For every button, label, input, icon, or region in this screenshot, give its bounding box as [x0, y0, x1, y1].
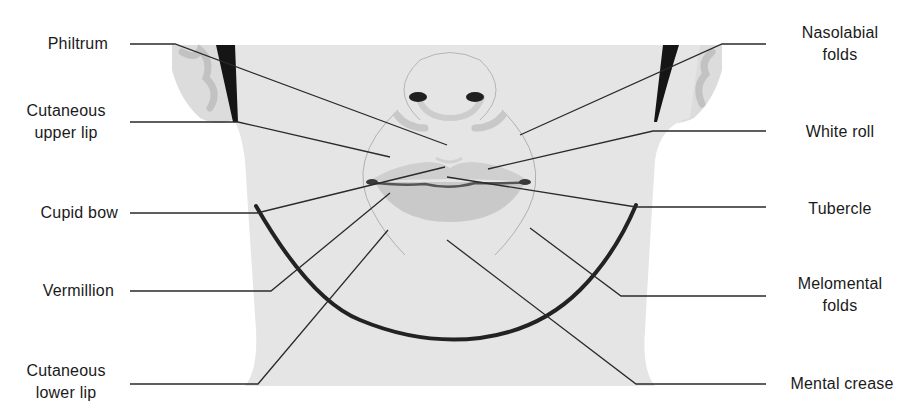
label-text-line1: Nasolabial: [780, 22, 900, 44]
label-text: Vermillion: [43, 282, 114, 299]
label-melomental-folds: Melomental folds: [780, 273, 900, 317]
label-text-line1: Cutaneous: [18, 100, 114, 122]
label-text: Cupid bow: [41, 204, 118, 221]
label-text-line1: Cutaneous: [18, 360, 114, 382]
label-text: White roll: [806, 123, 875, 140]
label-text: Philtrum: [48, 35, 108, 52]
label-white-roll: White roll: [780, 121, 900, 143]
label-tubercle: Tubercle: [780, 198, 900, 220]
label-cutaneous-lower-lip: Cutaneous lower lip: [18, 360, 114, 404]
label-text-line2: folds: [780, 295, 900, 317]
label-text-line1: Melomental: [780, 273, 900, 295]
label-philtrum: Philtrum: [18, 33, 108, 55]
right-nostril: [466, 92, 484, 102]
label-text: Tubercle: [808, 200, 871, 217]
label-vermillion: Vermillion: [18, 280, 114, 302]
label-text-line2: lower lip: [18, 382, 114, 404]
label-text-line2: folds: [780, 44, 900, 66]
label-mental-crease: Mental crease: [772, 373, 912, 395]
label-cutaneous-upper-lip: Cutaneous upper lip: [18, 100, 114, 144]
left-nostril: [409, 92, 427, 102]
label-text: Mental crease: [790, 375, 893, 392]
label-nasolabial-folds: Nasolabial folds: [780, 22, 900, 66]
label-text-line2: upper lip: [18, 122, 114, 144]
label-cupid-bow: Cupid bow: [18, 202, 118, 224]
